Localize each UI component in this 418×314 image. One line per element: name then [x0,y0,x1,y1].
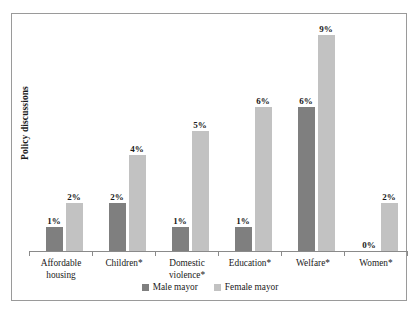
x-axis-tick [92,252,93,256]
x-axis-label-line: housing [24,270,98,282]
bar-group-women: 0% 2% [354,22,398,251]
bar-group-education: 1% 6% [228,22,272,251]
bar-value-female-3: 6% [247,96,279,106]
x-axis-label-women: Women* [339,258,413,270]
bar-female-0[interactable] [66,203,83,251]
x-axis-tick [281,252,282,256]
bar-male-2[interactable] [172,227,189,251]
x-axis-tick [155,252,156,256]
bar-male-1[interactable] [109,203,126,251]
bar-value-female-1: 4% [121,144,153,154]
chart-figure: Policy discussions 1% 2% 2% 4% 1% 5% 1% [11,13,407,301]
x-axis-tick [218,252,219,256]
bar-value-female-2: 5% [184,120,216,130]
x-axis-tick [407,252,408,256]
legend-item-female-mayor[interactable]: Female mayor [214,282,278,292]
bar-group-domestic-violence: 1% 5% [165,22,209,251]
bar-value-female-0: 2% [58,192,90,202]
bar-female-3[interactable] [255,107,272,251]
legend-item-male-mayor[interactable]: Male mayor [142,282,198,292]
bar-group-affordable-housing: 1% 2% [39,22,83,251]
bar-value-female-4: 9% [310,24,342,34]
x-axis-label-line: Women* [339,258,413,270]
x-axis-tick [29,252,30,256]
bar-group-welfare: 6% 9% [291,22,335,251]
bar-male-4[interactable] [298,107,315,251]
bar-female-4[interactable] [318,35,335,251]
x-axis-label-line: violence* [150,270,224,282]
bar-male-0[interactable] [46,227,63,251]
legend-label-female-mayor: Female mayor [225,282,278,292]
bar-female-2[interactable] [192,131,209,251]
bar-female-5[interactable] [381,203,398,251]
bar-male-3[interactable] [235,227,252,251]
x-axis-tick [344,252,345,256]
plot-area: 1% 2% 2% 4% 1% 5% 1% 6% 6% [29,22,408,251]
bar-group-children: 2% 4% [102,22,146,251]
legend-swatch-icon [214,284,221,291]
bar-value-female-5: 2% [373,192,405,202]
chart-legend: Male mayor Female mayor [12,282,408,292]
legend-label-male-mayor: Male mayor [153,282,198,292]
bar-female-1[interactable] [129,155,146,251]
legend-swatch-icon [142,284,149,291]
